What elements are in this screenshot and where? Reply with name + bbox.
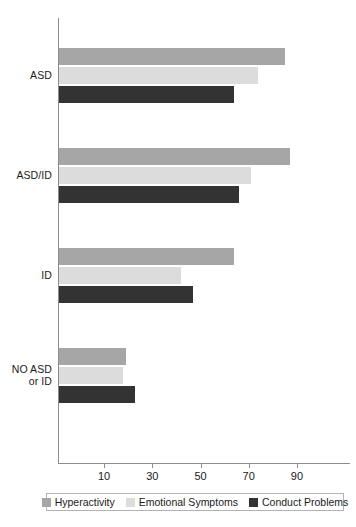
bar-emotional-symptoms-asd-id — [59, 167, 251, 184]
legend-swatch-emotional-symptoms — [126, 498, 135, 507]
bar-conduct-problems-no-asd-or-id — [59, 386, 135, 403]
bar-emotional-symptoms-asd — [59, 67, 258, 84]
bar-emotional-symptoms-no-asd-or-id — [59, 367, 123, 384]
tick-mark-90 — [297, 463, 298, 468]
bar-chart: ASD ASD/ID ID NO ASD or ID 1030507090 Hy… — [0, 0, 356, 527]
tick-label-90: 90 — [282, 470, 312, 483]
tick-label-50: 50 — [186, 470, 216, 483]
legend-swatch-hyperactivity — [42, 498, 51, 507]
category-label-asd: ASD — [0, 70, 52, 82]
bar-conduct-problems-asd — [59, 86, 234, 103]
category-label-no-asd-id: NO ASD or ID — [0, 364, 52, 387]
tick-label-30: 30 — [137, 470, 167, 483]
category-axis-labels: ASD ASD/ID ID NO ASD or ID — [0, 18, 54, 468]
bar-conduct-problems-id — [59, 286, 193, 303]
tick-label-10: 10 — [89, 470, 119, 483]
legend-label-emotional-symptoms: Emotional Symptoms — [139, 496, 238, 508]
bars-container — [59, 18, 354, 463]
chart-legend: Hyperactivity Emotional Symptoms Conduct… — [46, 493, 344, 511]
tick-mark-10 — [104, 463, 105, 468]
tick-mark-50 — [201, 463, 202, 468]
legend-item-hyperactivity: Hyperactivity — [42, 496, 115, 508]
bar-emotional-symptoms-id — [59, 267, 181, 284]
bar-hyperactivity-asd — [59, 48, 285, 65]
bar-hyperactivity-asd-id — [59, 148, 290, 165]
plot-area: ASD ASD/ID ID NO ASD or ID 1030507090 — [0, 18, 356, 468]
x-axis-ticks: 1030507090 — [0, 463, 356, 487]
tick-mark-70 — [249, 463, 250, 468]
legend-item-conduct-problems: Conduct Problems — [249, 496, 348, 508]
bar-conduct-problems-asd-id — [59, 186, 239, 203]
bar-hyperactivity-no-asd-or-id — [59, 348, 126, 365]
legend-item-emotional-symptoms: Emotional Symptoms — [126, 496, 238, 508]
category-label-asd-id: ASD/ID — [0, 170, 52, 182]
legend-label-hyperactivity: Hyperactivity — [55, 496, 115, 508]
tick-label-70: 70 — [234, 470, 264, 483]
bar-hyperactivity-id — [59, 248, 234, 265]
tick-mark-30 — [152, 463, 153, 468]
legend-label-conduct-problems: Conduct Problems — [262, 496, 348, 508]
category-label-id: ID — [0, 270, 52, 282]
legend-swatch-conduct-problems — [249, 498, 258, 507]
